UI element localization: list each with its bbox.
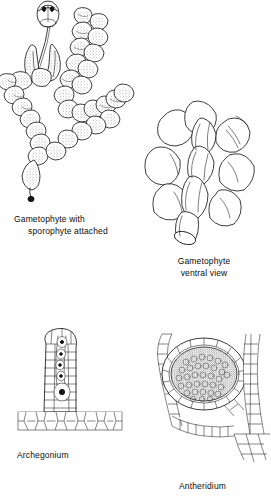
caption-line-2: ventral view [152, 268, 256, 280]
caption-line-1: Gametophyte [178, 256, 231, 266]
sporophyte-capsule [37, 1, 59, 27]
illustration-plate: Gametophyte with sporophyte attached [0, 0, 271, 498]
lower-stem-tissue [234, 434, 270, 462]
spermatogenous-cell-mass [171, 347, 237, 402]
caption-gametophyte-ventral-view: Gametophyte ventral view [152, 256, 256, 279]
figure-gametophyte-with-sporophyte [0, 0, 140, 210]
caption-antheridium: Antheridium [179, 481, 226, 493]
caption-line-1: Archegonium [17, 450, 69, 460]
caption-line-1: Gametophyte with [14, 214, 85, 224]
figure-archegonium [18, 326, 130, 444]
caption-archegonium: Archegonium [17, 450, 69, 462]
figure-antheridium [146, 330, 270, 474]
caption-gametophyte-with-sporophyte: Gametophyte with sporophyte attached [14, 214, 108, 237]
caption-line-2: sporophyte attached [14, 226, 108, 238]
caption-line-1: Antheridium [179, 481, 226, 491]
figure-gametophyte-ventral-view [140, 96, 268, 252]
antheridium-basal-cell-row [172, 416, 234, 437]
stem-tissue-column [243, 334, 264, 434]
thallus-base-tissue [18, 412, 122, 430]
gametophyte-branch-upper-right [54, 8, 108, 104]
gametophyte-branch-left [0, 74, 50, 202]
